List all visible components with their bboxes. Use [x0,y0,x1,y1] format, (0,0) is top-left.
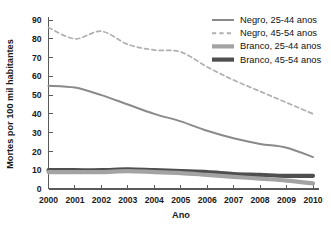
y-tick-label: 0 [37,184,42,194]
x-tick-label: 2001 [65,195,84,205]
y-axis-tick-labels: 0102030405060708090 [32,15,42,194]
y-axis-title: Mortes por 100 mil habitantes [5,39,15,169]
chart-legend: Negro, 25-44 anosNegro, 45-54 anosBranco… [212,15,321,65]
y-tick-label: 90 [32,15,42,25]
y-tick-label: 60 [32,71,42,81]
y-tick-label: 30 [32,128,42,138]
x-tick-label: 2009 [277,195,296,205]
y-tick-label: 50 [32,90,42,100]
y-tick-label: 70 [32,53,42,63]
legend-label: Branco, 25-44 anos [240,41,321,51]
x-tick-label: 2010 [303,195,322,205]
x-tick-label: 2005 [171,195,190,205]
y-tick-label: 10 [32,165,42,175]
x-axis-tick-labels: 2000200120022003200420052006200720082009… [39,195,323,205]
chart-canvas: 0102030405060708090 20002001200220032004… [0,0,331,225]
y-tick-label: 20 [32,147,42,157]
legend-label: Negro, 25-44 anos [240,15,317,25]
legend-label: Negro, 45-54 anos [240,28,317,38]
line-chart: 0102030405060708090 20002001200220032004… [0,0,331,225]
y-tick-label: 80 [32,34,42,44]
x-tick-label: 2007 [224,195,243,205]
x-axis-title: Ano [172,210,190,220]
y-tick-label: 40 [32,109,42,119]
x-tick-label: 2008 [251,195,270,205]
x-tick-label: 2004 [145,195,164,205]
legend-label: Branco, 45-54 anos [240,55,321,65]
y-axis-tick-marks [49,20,53,189]
x-tick-label: 2002 [92,195,111,205]
x-tick-label: 2003 [118,195,137,205]
x-axis-tick-marks [49,185,314,189]
x-tick-label: 2006 [198,195,217,205]
x-tick-label: 2000 [39,195,58,205]
series-line [49,86,314,157]
